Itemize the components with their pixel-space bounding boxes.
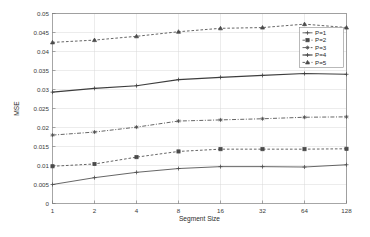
x-tick-label: 8 (177, 207, 181, 214)
x-tick-label: 128 (341, 207, 352, 214)
data-point-marker (135, 125, 139, 129)
data-point-marker (261, 117, 265, 121)
data-point-marker (345, 163, 349, 167)
data-point-marker (135, 156, 138, 159)
legend-label: P=3 (315, 44, 327, 51)
y-axis-title: MSE (13, 101, 20, 116)
data-point-marker (306, 39, 309, 42)
data-point-marker (303, 148, 306, 151)
y-tick-label: 0.045 (34, 29, 50, 36)
data-point-marker (177, 119, 181, 123)
x-axis-title: Segment Size (179, 215, 220, 223)
x-tick-label: 16 (217, 207, 224, 214)
triangle-marker (51, 40, 55, 44)
square-marker (261, 148, 264, 151)
y-tick-label: 0.01 (37, 162, 50, 169)
data-point-marker (219, 148, 222, 151)
series-line (53, 149, 347, 166)
triangle-marker (303, 22, 307, 26)
legend-label: P=5 (315, 59, 327, 66)
data-point-marker (177, 78, 181, 82)
square-marker (135, 156, 138, 159)
data-point-marker (51, 183, 55, 187)
data-point-marker (261, 165, 265, 169)
series-p1 (51, 163, 349, 187)
square-marker (51, 165, 54, 168)
series-p4 (51, 72, 349, 95)
data-point-marker (219, 118, 223, 122)
triangle-marker (345, 26, 349, 30)
data-point-marker (177, 150, 180, 153)
data-point-marker (261, 73, 265, 77)
x-tick-label: 2 (93, 207, 97, 214)
y-tick-label: 0.03 (37, 86, 50, 93)
data-point-marker (219, 26, 223, 30)
triangle-marker (219, 26, 223, 30)
data-point-marker (51, 90, 55, 94)
triangle-marker (93, 38, 97, 42)
y-tick-label: 0.02 (37, 124, 50, 131)
data-point-marker (303, 22, 307, 26)
square-marker (303, 148, 306, 151)
data-point-marker (177, 30, 181, 34)
data-point-marker (261, 26, 265, 30)
data-point-marker (219, 165, 223, 169)
data-point-marker (93, 162, 96, 165)
y-tick-label: 0.005 (34, 181, 50, 188)
data-point-marker (345, 72, 349, 76)
square-marker (219, 148, 222, 151)
series-p3 (51, 115, 349, 137)
data-point-marker (51, 133, 55, 137)
data-point-marker (51, 40, 55, 44)
data-point-marker (345, 147, 348, 150)
square-marker (93, 162, 96, 165)
triangle-marker (177, 30, 181, 34)
data-point-marker (93, 176, 97, 180)
x-axis: 1248163264128 (51, 201, 352, 214)
x-tick-label: 32 (259, 207, 266, 214)
data-point-marker (345, 26, 349, 30)
data-point-marker (93, 38, 97, 42)
x-tick-label: 64 (301, 207, 308, 214)
data-point-marker (303, 72, 307, 76)
legend: P=1P=2P=3P=4P=5 (300, 28, 344, 68)
data-point-marker (135, 84, 139, 88)
x-tick-label: 4 (135, 207, 139, 214)
y-tick-label: 0.025 (34, 105, 50, 112)
data-point-marker (51, 165, 54, 168)
square-marker (306, 39, 309, 42)
y-tick-label: 0 (46, 200, 50, 207)
series-line (53, 117, 347, 135)
data-point-marker (345, 115, 349, 119)
series-p2 (51, 147, 348, 168)
x-tick-label: 1 (51, 207, 55, 214)
legend-label: P=2 (315, 36, 327, 43)
data-point-marker (93, 130, 97, 134)
data-point-marker (135, 170, 139, 174)
y-tick-label: 0.035 (34, 67, 50, 74)
data-point-marker (135, 34, 139, 38)
data-point-marker (93, 86, 97, 90)
square-marker (345, 147, 348, 150)
series-line (53, 165, 347, 185)
data-point-marker (219, 75, 223, 79)
y-tick-label: 0.015 (34, 143, 50, 150)
triangle-marker (261, 26, 265, 30)
square-marker (177, 150, 180, 153)
chart-canvas: 00.0050.010.0150.020.0250.030.0350.040.0… (0, 0, 370, 237)
legend-label: P=4 (315, 51, 327, 58)
triangle-marker (135, 34, 139, 38)
data-point-marker (303, 115, 307, 119)
legend-label: P=1 (315, 29, 327, 36)
data-point-marker (177, 167, 181, 171)
mse-vs-segment-size-chart: 00.0050.010.0150.020.0250.030.0350.040.0… (0, 0, 370, 237)
y-tick-label: 0.04 (37, 48, 50, 55)
y-tick-label: 0.05 (37, 10, 50, 17)
data-point-marker (261, 148, 264, 151)
